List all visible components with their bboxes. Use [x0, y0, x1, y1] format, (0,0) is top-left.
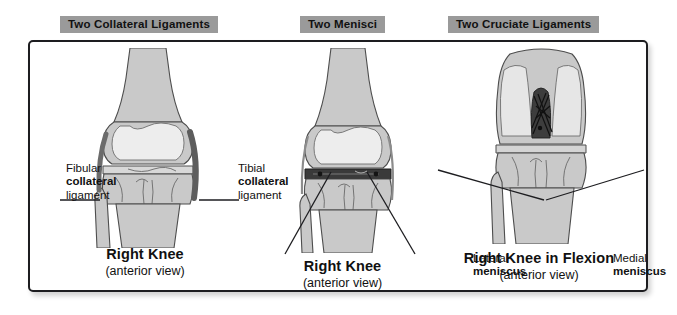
section-banner-collateral-ligaments: Two Collateral Ligaments: [60, 16, 218, 33]
caption-right-knee-collateral: Right Knee (anterior view): [30, 246, 260, 279]
knee-illustration-collateral: Fibular collateral ligament Tibial colla…: [30, 42, 260, 290]
label-line-3: ligament: [66, 189, 117, 202]
knee-illustration-cruciate: Anterior cruciate ligament (ACL) Posteri…: [428, 42, 650, 290]
caption-title: Right Knee in Flexion: [428, 250, 650, 267]
knee-illustration-menisci: Lateral meniscus Medial meniscus Right K…: [245, 42, 440, 290]
label-line-2: collateral: [66, 175, 117, 188]
caption-right-knee-menisci: Right Knee (anterior view): [245, 258, 440, 291]
caption-title: Right Knee: [245, 258, 440, 275]
illustration-panel: Fibular collateral ligament Tibial colla…: [28, 40, 648, 292]
knee-anatomy-figure: Two Collateral Ligaments Two Menisci Two…: [0, 0, 677, 315]
caption-subtitle: (anterior view): [30, 263, 260, 279]
caption-right-knee-in-flexion: Right Knee in Flexion (anterior view): [428, 250, 650, 283]
label-fibular-collateral-ligament: Fibular collateral ligament: [66, 162, 117, 202]
knee-anterior-view-drawing: [293, 48, 403, 253]
section-banner-menisci: Two Menisci: [300, 16, 385, 33]
knee-anterior-view-drawing: [86, 48, 210, 248]
label-line-1: Fibular: [66, 162, 117, 175]
caption-subtitle: (anterior view): [245, 275, 440, 291]
knee-flexion-view-drawing: [480, 48, 602, 244]
section-banner-cruciate-ligaments: Two Cruciate Ligaments: [448, 16, 599, 33]
caption-subtitle: (anterior view): [428, 267, 650, 283]
caption-title: Right Knee: [30, 246, 260, 263]
